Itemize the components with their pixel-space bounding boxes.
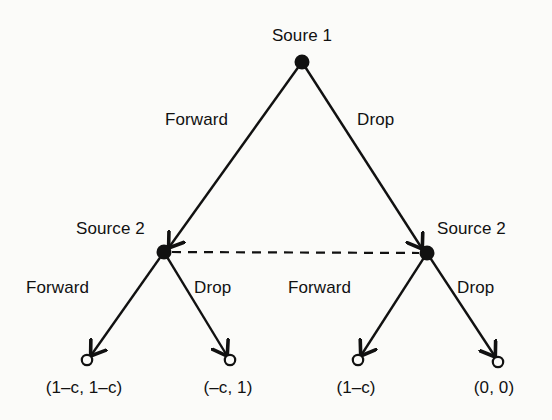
node-label-mid-left: Source 2 [76, 219, 145, 239]
branch-label-left-forward: Forward [26, 278, 89, 298]
branch-label-left-drop: Drop [194, 278, 231, 298]
edge-right-forward [362, 253, 427, 354]
terminal-node-marker [493, 357, 503, 367]
terminal-node-marker [225, 355, 235, 365]
terminal-node-marker [82, 355, 92, 365]
branch-label-root-drop: Drop [357, 110, 394, 130]
payoff-label: (0, 0) [474, 378, 514, 398]
game-tree-figure: Soure 1 Source 2 Source 2 Forward Drop F… [0, 0, 552, 420]
terminal-node-marker [353, 355, 363, 365]
tree-graphics [0, 0, 552, 420]
branch-label-right-forward: Forward [288, 278, 351, 298]
information-set-link [172, 252, 419, 253]
branch-label-right-drop: Drop [457, 278, 494, 298]
edge-right-drop [427, 253, 494, 355]
node-mid-right-marker [420, 246, 435, 261]
node-mid-left-marker [157, 245, 172, 260]
branch-label-root-forward: Forward [165, 110, 228, 130]
node-root-marker [295, 55, 310, 70]
payoff-label: (–c, 1) [204, 378, 253, 398]
payoff-label: (1–c, 1–c) [46, 378, 123, 398]
edge-root-forward [170, 62, 302, 246]
edge-left-drop [164, 252, 226, 354]
payoff-label: (1–c) [336, 378, 375, 398]
edge-left-forward [92, 252, 164, 354]
edge-root-drop [302, 62, 421, 247]
node-label-mid-right: Source 2 [437, 219, 506, 239]
node-label-root: Soure 1 [272, 26, 332, 46]
